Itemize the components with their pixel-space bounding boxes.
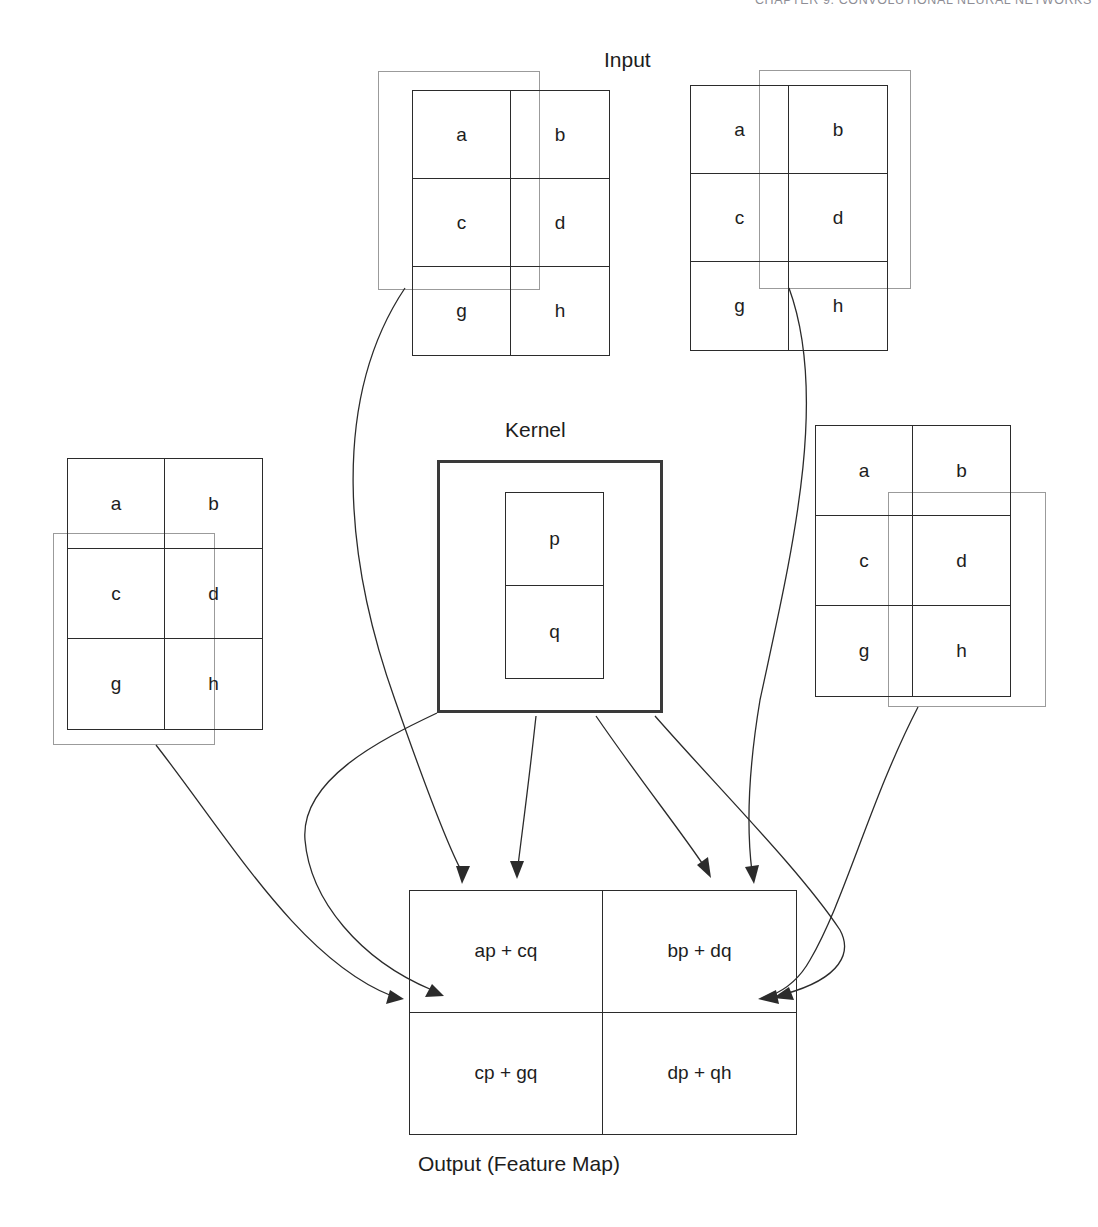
connector-top-right-to-bp-dq: [745, 288, 806, 884]
caption-output: Output (Feature Map): [418, 1152, 620, 1176]
output-cell: bp + dq: [603, 891, 796, 1013]
chapter-running-head: CHAPTER 9. CONVOLUTIONAL NEURAL NETWORKS: [755, 0, 1092, 7]
matrix-cell: c: [413, 179, 511, 267]
kernel-cell: q: [506, 586, 603, 679]
matrix-cell: c: [68, 549, 165, 639]
connector-kernel-to-bp-dq: [596, 716, 711, 878]
output-cell: cp + gq: [410, 1013, 603, 1135]
connector-mid-left-to-cp-gq: [156, 745, 404, 1004]
matrix-cell: h: [165, 639, 262, 729]
matrix-cell: h: [913, 606, 1010, 696]
matrix-cell: g: [413, 267, 511, 355]
matrix-cell: b: [165, 459, 262, 549]
diagram-page: CHAPTER 9. CONVOLUTIONAL NEURAL NETWORKS…: [0, 0, 1098, 1227]
matrix-cell: g: [68, 639, 165, 729]
connector-kernel-to-ap-cq-direct: [510, 716, 536, 879]
kernel-cell: p: [506, 493, 603, 586]
matrix-cell: d: [511, 179, 609, 267]
output-feature-map: ap + cq bp + dq cp + gq dp + qh: [409, 890, 797, 1135]
matrix-cell: h: [789, 262, 887, 350]
caption-kernel: Kernel: [505, 418, 566, 442]
input-matrix-top-left: a b c d g h: [412, 90, 610, 356]
kernel-matrix: p q: [505, 492, 604, 679]
input-matrix-mid-left: a b c d g h: [67, 458, 263, 730]
matrix-cell: a: [691, 86, 789, 174]
matrix-cell: b: [913, 426, 1010, 516]
input-matrix-mid-right: a b c d g h: [815, 425, 1011, 697]
matrix-cell: a: [68, 459, 165, 549]
matrix-cell: d: [165, 549, 262, 639]
matrix-cell: c: [691, 174, 789, 262]
matrix-cell: d: [913, 516, 1010, 606]
matrix-cell: a: [816, 426, 913, 516]
output-cell: dp + qh: [603, 1013, 796, 1135]
matrix-cell: b: [789, 86, 887, 174]
matrix-cell: g: [816, 606, 913, 696]
output-cell: ap + cq: [410, 891, 603, 1013]
matrix-cell: b: [511, 91, 609, 179]
input-matrix-top-right: a b c d g h: [690, 85, 888, 351]
matrix-cell: g: [691, 262, 789, 350]
matrix-cell: a: [413, 91, 511, 179]
matrix-cell: d: [789, 174, 887, 262]
matrix-cell: h: [511, 267, 609, 355]
caption-input: Input: [604, 48, 651, 72]
matrix-cell: c: [816, 516, 913, 606]
